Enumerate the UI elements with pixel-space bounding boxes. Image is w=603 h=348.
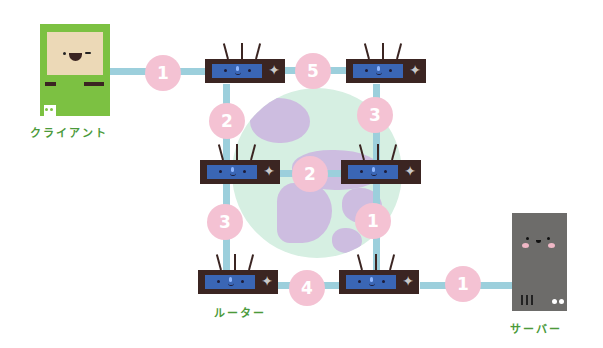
hop-cost-r4-r6: 1 [355,203,391,239]
hop-cost-r2-r4: 3 [357,97,393,133]
hop-cost-r1-r2: 5 [295,53,331,89]
hop-cost-r1-r3: 2 [209,103,245,139]
router-bottom-right: ✦ [339,270,419,294]
client-computer-icon [40,24,110,116]
router-top-left: ✦ [205,59,285,83]
hop-cost-r6-server: 1 [445,266,481,302]
router-star-icon: ✦ [267,63,281,77]
client-label: クライアント [30,124,108,140]
hop-cost-r3-r4: 2 [292,156,328,192]
router-star-icon: ✦ [401,274,415,288]
router-bottom-left: ✦ [198,270,278,294]
router-top-right: ✦ [346,59,426,83]
router-star-icon: ✦ [408,63,422,77]
router-label: ルーター [214,304,266,320]
hop-cost-r3-r5: 3 [207,204,243,240]
router-star-icon: ✦ [403,164,417,178]
hop-cost-client-r1: 1 [145,55,181,91]
server-icon [512,213,567,311]
server-label: サーバー [510,320,562,336]
router-star-icon: ✦ [262,164,276,178]
hop-cost-r5-r6: 4 [289,270,325,306]
router-star-icon: ✦ [260,274,274,288]
router-middle-left: ✦ [200,160,280,184]
router-middle-right: ✦ [341,160,421,184]
